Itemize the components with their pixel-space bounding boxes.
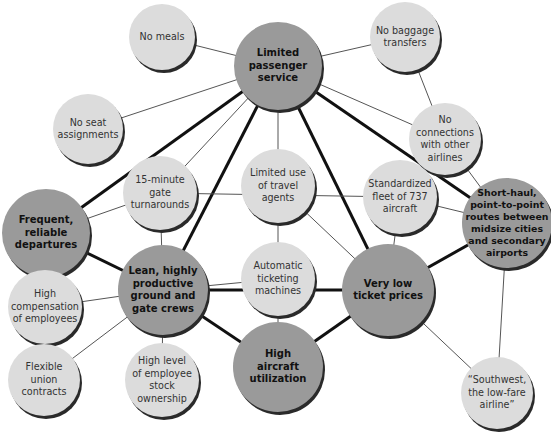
node-label: Lean, highly productive ground and gate …	[126, 265, 199, 315]
node-frequent: Frequent, reliable departures	[2, 189, 90, 277]
node-high-util: High aircraft utilization	[233, 322, 323, 412]
node-label: Short-haul, point-to-point routes betwee…	[463, 187, 550, 259]
node-label: No meals	[138, 31, 187, 44]
node-stock: High level of employee stock ownership	[125, 343, 199, 417]
node-no-connections: No connections with other airlines	[409, 103, 481, 175]
node-label: Limited use of travel agents	[248, 167, 308, 205]
node-no-meals: No meals	[129, 4, 195, 70]
node-no-baggage: No baggage transfers	[370, 2, 440, 72]
node-label: No seat assignments	[56, 117, 121, 142]
node-label: No baggage transfers	[374, 25, 436, 50]
node-label: High compensation of employees	[9, 288, 81, 326]
node-label: High level of employee stock ownership	[130, 355, 194, 405]
node-label: 15-minute gate turnarounds	[129, 174, 191, 212]
node-no-seat: No seat assignments	[53, 94, 123, 164]
node-label: High aircraft utilization	[248, 348, 309, 386]
node-limited-service: Limited passenger service	[234, 22, 322, 110]
node-label: Standardized fleet of 737 aircraft	[366, 178, 433, 216]
node-high-comp: High compensation of employees	[8, 270, 82, 344]
node-lean: Lean, highly productive ground and gate …	[118, 245, 208, 335]
node-flexible: Flexible union contracts	[8, 344, 80, 416]
node-label: Limited passenger service	[247, 47, 310, 85]
activity-system-map: No mealsLimited passenger serviceNo bagg…	[0, 0, 551, 434]
node-label: Frequent, reliable departures	[13, 214, 79, 252]
node-label: Flexible union contracts	[20, 361, 69, 399]
node-label: “Southwest, the low-fare airline”	[466, 374, 528, 412]
node-southwest: “Southwest, the low-fare airline”	[461, 357, 533, 429]
node-turnarounds: 15-minute gate turnarounds	[123, 156, 197, 230]
node-label: Very low ticket prices	[351, 278, 425, 303]
node-label: Automatic ticketing machines	[251, 260, 304, 298]
node-label: No connections with other airlines	[414, 114, 476, 164]
node-very-low: Very low ticket prices	[342, 244, 434, 336]
node-automatic: Automatic ticketing machines	[241, 242, 315, 316]
node-shorthaul: Short-haul, point-to-point routes betwee…	[462, 178, 551, 268]
node-standardized: Standardized fleet of 737 aircraft	[363, 160, 437, 234]
node-limited-travel: Limited use of travel agents	[241, 149, 315, 223]
